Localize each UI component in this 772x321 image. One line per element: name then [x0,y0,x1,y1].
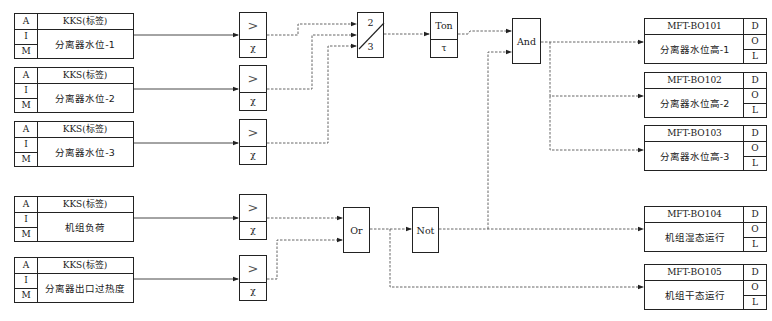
comparator-5: > χ [239,255,267,301]
not-gate: Not [412,207,439,253]
input-block-level-2: A I M KKS(标签) 分离器水位-2 [14,67,134,113]
flag-m: M [15,44,37,59]
comparator-param: χ [240,92,266,110]
flag-m: M [15,288,37,303]
comparator-param: χ [240,39,266,57]
input-name: 分离器水位-2 [37,83,133,112]
and-label: And [517,36,536,47]
flag-a: A [15,14,37,30]
output-flag-column: D O L [743,126,766,170]
flag-l: L [744,237,766,252]
input-name: 分离器水位-3 [37,137,133,166]
comparator-param: χ [240,282,266,300]
flag-l: L [744,295,766,310]
flag-a: A [15,197,37,213]
ton-param: τ [431,39,457,57]
flag-i: I [15,212,37,228]
flag-o: O [744,34,766,50]
flag-i: I [15,83,37,99]
input-block-level-3: A I M KKS(标签) 分离器水位-3 [14,121,134,167]
output-name: 机组湿态运行 [645,222,744,251]
input-name: 分离器水位-1 [37,29,133,58]
input-block-level-1: A I M KKS(标签) 分离器水位-1 [14,13,134,59]
greater-than-icon: > [240,66,266,93]
output-tag: MFT-BO102 [645,73,744,89]
input-flag-column: A I M [15,258,38,302]
vote-2oo3-block: 2 3 [357,12,384,58]
flag-d: D [744,73,766,89]
input-tag: KKS(标签) [37,197,133,213]
input-tag: KKS(标签) [37,14,133,30]
flag-o: O [744,141,766,157]
output-block-bo103: MFT-BO103 分离器水位高-3 D O L [644,125,767,171]
output-tag: MFT-BO104 [645,207,744,223]
flag-d: D [744,265,766,281]
flag-i: I [15,137,37,153]
greater-than-icon: > [240,195,266,222]
comparator-2: > χ [239,65,267,111]
output-tag: MFT-BO103 [645,126,744,142]
comparator-3: > χ [239,119,267,165]
input-flag-column: A I M [15,197,38,241]
flag-a: A [15,258,37,274]
flag-d: D [744,19,766,35]
output-name: 分离器水位高-3 [645,141,744,170]
flag-d: D [744,126,766,142]
not-label: Not [417,225,435,236]
comparator-4: > χ [239,194,267,240]
vote-slash-icon [358,13,385,59]
output-name: 分离器水位高-2 [645,88,744,117]
output-flag-column: D O L [743,73,766,117]
input-tag: KKS(标签) [37,68,133,84]
ton-timer-block: Ton τ [430,12,458,58]
output-block-bo105: MFT-BO105 机组干态运行 D O L [644,264,767,310]
flag-l: L [744,156,766,171]
ton-label: Ton [431,13,457,40]
output-tag: MFT-BO101 [645,19,744,35]
input-flag-column: A I M [15,122,38,166]
flag-o: O [744,222,766,238]
greater-than-icon: > [240,13,266,40]
output-name: 分离器水位高-1 [645,34,744,63]
input-name: 机组负荷 [37,212,133,241]
output-block-bo101: MFT-BO101 分离器水位高-1 D O L [644,18,767,64]
input-name: 分离器出口过热度 [37,273,133,302]
flag-i: I [15,29,37,45]
vote-bottom: 3 [358,41,383,52]
or-label: Or [350,225,362,236]
input-tag: KKS(标签) [37,122,133,138]
flag-l: L [744,49,766,64]
flag-m: M [15,98,37,113]
flag-o: O [744,88,766,104]
flag-i: I [15,273,37,289]
flag-a: A [15,122,37,138]
flag-a: A [15,68,37,84]
flag-l: L [744,103,766,118]
input-flag-column: A I M [15,68,38,112]
and-gate: And [512,18,541,64]
flag-o: O [744,280,766,296]
or-gate: Or [343,207,370,253]
flag-m: M [15,227,37,242]
flag-d: D [744,207,766,223]
greater-than-icon: > [240,256,266,283]
output-block-bo102: MFT-BO102 分离器水位高-2 D O L [644,72,767,118]
output-flag-column: D O L [743,265,766,309]
input-block-unit-load: A I M KKS(标签) 机组负荷 [14,196,134,242]
comparator-param: χ [240,146,266,164]
comparator-1: > χ [239,12,267,58]
input-tag: KKS(标签) [37,258,133,274]
comparator-param: χ [240,221,266,239]
greater-than-icon: > [240,120,266,147]
output-flag-column: D O L [743,207,766,251]
output-name: 机组干态运行 [645,280,744,309]
output-flag-column: D O L [743,19,766,63]
flag-m: M [15,152,37,167]
output-tag: MFT-BO105 [645,265,744,281]
input-flag-column: A I M [15,14,38,58]
output-block-bo104: MFT-BO104 机组湿态运行 D O L [644,206,767,252]
input-block-superheat: A I M KKS(标签) 分离器出口过热度 [14,257,134,303]
